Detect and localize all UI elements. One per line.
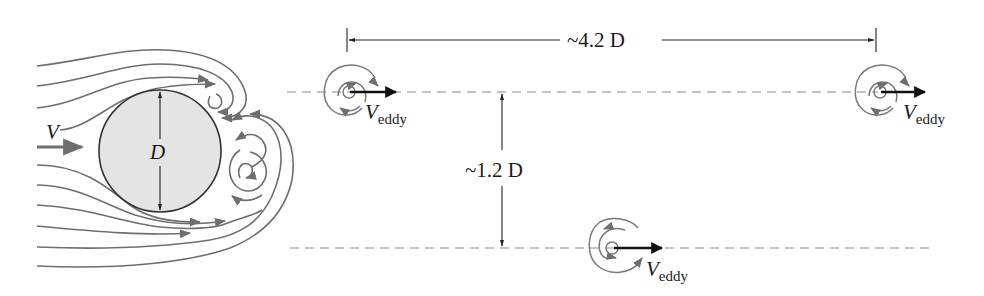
freestream-velocity-label: V — [46, 120, 59, 145]
eddy-velocity-label-upper-left: Veddy — [365, 100, 407, 128]
vortex-street-diagram — [0, 0, 984, 296]
eddy-velocity-label-lower: Veddy — [646, 257, 688, 285]
eddy-velocity-subscript: eddy — [378, 111, 407, 127]
diameter-label: D — [150, 140, 165, 165]
lateral-spacing-label: ~1.2 D — [465, 158, 523, 183]
eddy-velocity-symbol: V — [646, 257, 659, 281]
eddy-velocity-label-upper-right: Veddy — [903, 100, 945, 128]
eddy-upper-right — [855, 65, 909, 115]
eddy-velocity-symbol: V — [903, 100, 916, 124]
eddy-velocity-subscript: eddy — [659, 268, 688, 284]
eddy-velocity-subscript: eddy — [916, 111, 945, 127]
streamwise-spacing-label: ~4.2 D — [567, 28, 625, 53]
eddy-lower — [589, 219, 642, 273]
eddy-velocity-symbol: V — [365, 100, 378, 124]
